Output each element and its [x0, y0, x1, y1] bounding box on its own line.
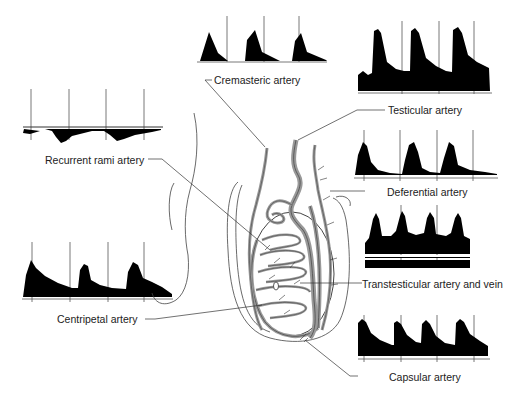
transtesticular-waveform [365, 205, 470, 268]
testicular-vessel [267, 140, 315, 338]
testicular-waveform [358, 21, 492, 94]
recurrent-rami-waveform [23, 89, 163, 143]
deferential-artery-label: Deferential artery [387, 186, 468, 198]
centripetal-artery-label: Centripetal artery [57, 313, 138, 325]
capsular-artery-label: Capsular artery [389, 371, 461, 383]
leader-lines [145, 80, 385, 376]
centripetal-waveform [22, 242, 173, 302]
cremasteric-waveform [197, 16, 327, 62]
transtesticular-node [274, 282, 279, 290]
capsular-waveform [358, 315, 490, 362]
scrotum-outline [227, 182, 350, 341]
deferential-waveform [354, 130, 498, 181]
testicular-artery-label: Testicular artery [388, 104, 462, 116]
diagram-canvas [0, 0, 519, 399]
cremasteric-artery-label: Cremasteric artery [214, 74, 300, 86]
penis-outline [152, 113, 197, 304]
transtesticular-artery-and-vein-label: Transtesticular artery and vein [362, 278, 503, 290]
recurrent-rami-artery-label: Recurrent rami artery [45, 154, 144, 166]
